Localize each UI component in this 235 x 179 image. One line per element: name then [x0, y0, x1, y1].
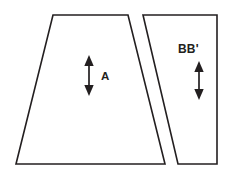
diagram-canvas: A BB' [0, 0, 235, 179]
label-a: A [101, 71, 109, 83]
diagram-svg [0, 0, 235, 179]
label-bb: BB' [178, 43, 199, 55]
